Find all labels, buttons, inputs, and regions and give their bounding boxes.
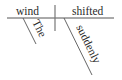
verb-modifier-word: suddenly [73, 23, 103, 66]
sentence-diagram: wind shifted The suddenly [0, 0, 122, 80]
subject-modifier-word: The [30, 18, 49, 39]
verb-word: shifted [72, 5, 104, 17]
subject-word: wind [16, 5, 39, 17]
